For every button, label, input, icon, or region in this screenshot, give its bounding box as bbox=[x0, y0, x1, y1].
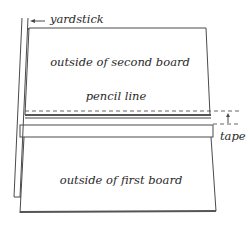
second-board: outside of second board bbox=[25, 28, 211, 118]
first-board: outside of first board bbox=[20, 137, 216, 213]
tape-label: tape bbox=[220, 129, 246, 143]
pencil-line-label: pencil line bbox=[86, 89, 147, 103]
tape-arrow-up-icon bbox=[226, 113, 230, 117]
tape-strip bbox=[20, 125, 213, 137]
yardstick-callout: yardstick bbox=[30, 12, 104, 26]
second-board-label: outside of second board bbox=[50, 55, 190, 69]
board-taping-diagram: yardstick outside of second board pencil… bbox=[0, 0, 252, 243]
first-board-right-edge bbox=[211, 137, 216, 211]
yardstick bbox=[14, 18, 28, 197]
pencil-line: pencil line bbox=[25, 89, 240, 111]
yardstick-label: yardstick bbox=[49, 12, 104, 26]
first-board-label: outside of first board bbox=[60, 173, 183, 187]
yardstick-arrow-head-icon bbox=[30, 19, 35, 23]
first-board-bottom-edge bbox=[20, 211, 216, 212]
